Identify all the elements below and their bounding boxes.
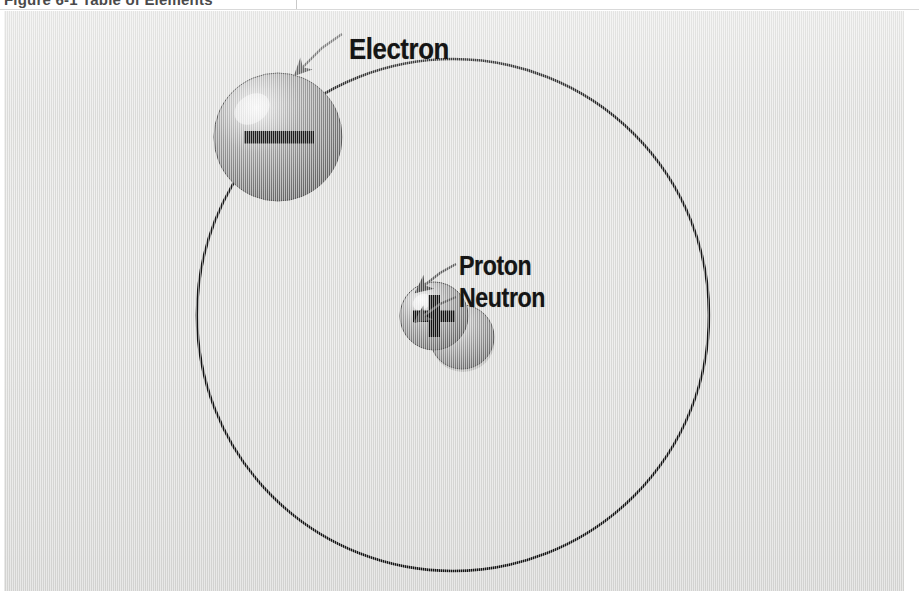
electron-leader-line: [295, 34, 342, 75]
atom-diagram-panel: Electron Proton Neutron: [4, 11, 904, 591]
electron-group: [214, 73, 342, 201]
header-rule: [0, 9, 919, 10]
figure-caption: Figure 6-1 Table of Elements: [4, 0, 213, 8]
electron-minus-symbol: [244, 131, 314, 144]
atom-diagram-svg: [4, 11, 904, 591]
header-divider: [296, 0, 297, 9]
electron-label: Electron: [349, 32, 449, 66]
neutron-label: Neutron: [459, 283, 545, 314]
figure-page: Figure 6-1 Table of Elements: [0, 0, 919, 591]
proton-label: Proton: [459, 251, 531, 282]
